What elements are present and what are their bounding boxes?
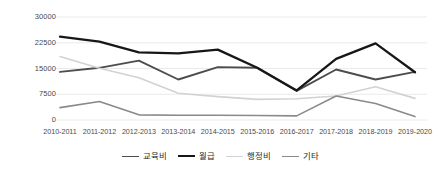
line-chart: 07500150002250030000 2010-20112011-20122… [0, 0, 441, 177]
legend-line-icon [178, 155, 195, 157]
x-tick-label: 2015-2016 [240, 128, 274, 135]
legend-label: 행정비 [247, 152, 271, 160]
chart-legend: 교육비월급행정비기타 [0, 152, 441, 160]
legend-line-icon [282, 156, 299, 157]
legend-item[interactable]: 기타 [282, 152, 319, 160]
legend-item[interactable]: 월급 [178, 152, 215, 160]
x-axis-tick-labels: 2010-20112011-20122012-20132013-20142014… [0, 0, 441, 177]
legend-line-icon [122, 156, 139, 157]
x-tick-label: 2018-2019 [359, 128, 393, 135]
x-tick-label: 2016-2017 [280, 128, 314, 135]
legend-line-icon [226, 156, 243, 157]
legend-item[interactable]: 교육비 [122, 152, 167, 160]
legend-label: 월급 [199, 152, 215, 160]
x-tick-label: 2019-2020 [398, 128, 432, 135]
legend-label: 교육비 [143, 152, 167, 160]
x-tick-label: 2017-2018 [319, 128, 353, 135]
x-tick-label: 2012-2013 [122, 128, 156, 135]
x-tick-label: 2011-2012 [83, 128, 116, 135]
x-tick-label: 2014-2015 [201, 128, 235, 135]
x-tick-label: 2010-2011 [43, 128, 76, 135]
x-tick-label: 2013-2014 [161, 128, 195, 135]
legend-item[interactable]: 행정비 [226, 152, 271, 160]
legend-label: 기타 [303, 152, 319, 160]
